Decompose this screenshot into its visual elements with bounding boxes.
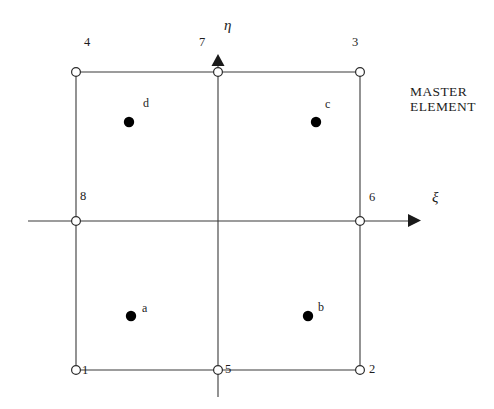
gauss-point-marker-d[interactable]	[124, 117, 134, 127]
figure-caption-line-2: ELEMENT	[410, 99, 476, 114]
xi-axis-label: ξ	[432, 190, 438, 205]
eta-axis	[212, 54, 225, 397]
gauss-point-marker-b[interactable]	[303, 311, 313, 321]
node-marker-8[interactable]	[72, 217, 81, 226]
node-marker-1[interactable]	[72, 366, 81, 375]
gauss-point-label-d: d	[143, 97, 149, 109]
gauss-point-label-c: c	[325, 98, 330, 110]
eta-axis-arrowhead	[212, 54, 225, 66]
node-marker-6[interactable]	[356, 217, 365, 226]
gauss-point-markers	[124, 117, 321, 321]
master-element-diagram: η ξ 1 2 3 4 5 6 7 8 a b c d MASTER ELEME…	[0, 0, 494, 409]
node-label-5: 5	[225, 363, 231, 376]
figure-caption-line-1: MASTER	[410, 84, 476, 99]
node-marker-7[interactable]	[214, 68, 223, 77]
gauss-point-label-a: a	[142, 302, 147, 314]
node-marker-5[interactable]	[214, 366, 223, 375]
node-label-1: 1	[82, 364, 88, 377]
eta-axis-label: η	[224, 18, 231, 33]
node-label-6: 6	[369, 191, 375, 204]
node-marker-2[interactable]	[356, 366, 365, 375]
node-label-2: 2	[369, 363, 375, 376]
node-label-3: 3	[352, 36, 358, 49]
node-marker-3[interactable]	[356, 68, 365, 77]
xi-axis-arrowhead	[408, 214, 421, 227]
gauss-point-label-b: b	[318, 301, 324, 313]
node-label-7: 7	[199, 36, 205, 49]
diagram-canvas	[0, 0, 494, 409]
gauss-point-marker-a[interactable]	[126, 311, 136, 321]
node-marker-4[interactable]	[72, 68, 81, 77]
figure-caption: MASTER ELEMENT	[410, 84, 476, 114]
node-label-4: 4	[84, 36, 90, 49]
node-label-8: 8	[80, 190, 86, 203]
gauss-point-marker-c[interactable]	[311, 117, 321, 127]
